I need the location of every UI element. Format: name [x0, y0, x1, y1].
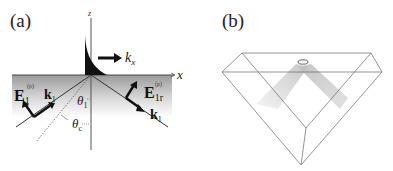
panel-a: (a) x z kx E1 (p) k1 E — [10, 9, 183, 150]
kx-arrowhead-icon — [114, 53, 122, 63]
evanescent-field-shape — [85, 35, 107, 75]
reflected-e-superscript: (p) — [155, 81, 162, 88]
panel-b: (b) — [222, 10, 382, 165]
figure: (a) x z kx E1 (p) k1 E — [0, 0, 393, 171]
panel-b-label: (b) — [222, 10, 244, 32]
kx-label: kx — [125, 50, 135, 67]
figure-canvas: (a) x z kx E1 (p) k1 E — [0, 0, 393, 171]
incident-beam — [256, 64, 308, 109]
z-axis-label: z — [87, 9, 92, 18]
reflected-beam — [298, 64, 348, 109]
x-axis-label: x — [176, 67, 183, 82]
incident-e-superscript: (p) — [27, 83, 34, 90]
thetac-label: θc — [72, 116, 82, 133]
sample-spot-icon — [298, 60, 308, 64]
panel-a-label: (a) — [10, 10, 31, 32]
